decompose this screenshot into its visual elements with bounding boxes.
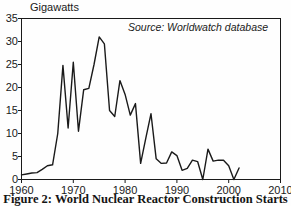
y-tick-label: 5 (0, 150, 18, 162)
x-axis-ticks (22, 180, 281, 184)
y-axis-title: Gigawatts (30, 1, 79, 13)
y-tick-label: 30 (0, 35, 18, 47)
y-tick-label: 15 (0, 104, 18, 116)
figure-container: Gigawatts Source: Worldwatch database 05… (0, 0, 291, 206)
y-tick-label: 20 (0, 81, 18, 93)
y-tick-label: 35 (0, 12, 18, 24)
series-line-construction-starts (22, 37, 240, 180)
figure-caption: Figure 2: World Nuclear Reactor Construc… (0, 192, 291, 206)
y-axis-ticks (18, 19, 22, 180)
y-tick-label: 10 (0, 127, 18, 139)
source-annotation: Source: Worldwatch database (128, 21, 268, 33)
y-tick-label: 25 (0, 58, 18, 70)
